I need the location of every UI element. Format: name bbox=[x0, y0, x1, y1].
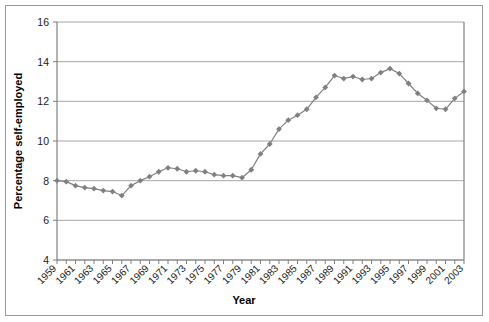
svg-text:2001: 2001 bbox=[423, 262, 447, 286]
svg-text:1991: 1991 bbox=[331, 262, 355, 286]
x-axis-title: Year bbox=[232, 294, 256, 306]
svg-text:1977: 1977 bbox=[201, 262, 225, 286]
svg-text:8: 8 bbox=[43, 175, 49, 187]
chart-container: 46810121416 1959196119631965196719691971… bbox=[0, 0, 489, 322]
svg-text:1965: 1965 bbox=[90, 262, 114, 286]
svg-text:1993: 1993 bbox=[349, 262, 373, 286]
svg-text:1971: 1971 bbox=[146, 262, 170, 286]
svg-text:1995: 1995 bbox=[368, 262, 392, 286]
svg-text:14: 14 bbox=[37, 56, 49, 68]
gridlines bbox=[57, 22, 464, 260]
svg-text:2003: 2003 bbox=[442, 262, 466, 286]
x-axis-tick-labels: 1959196119631965196719691971197319751977… bbox=[35, 262, 466, 286]
svg-text:1985: 1985 bbox=[275, 262, 299, 286]
y-axis-title: Percentage self-employed bbox=[12, 73, 24, 209]
line-chart: 46810121416 1959196119631965196719691971… bbox=[0, 0, 489, 322]
svg-text:1969: 1969 bbox=[127, 262, 151, 286]
svg-text:1975: 1975 bbox=[183, 262, 207, 286]
svg-text:1989: 1989 bbox=[312, 262, 336, 286]
svg-text:12: 12 bbox=[37, 95, 49, 107]
svg-text:1963: 1963 bbox=[72, 262, 96, 286]
data-series-line bbox=[57, 69, 464, 196]
svg-text:1983: 1983 bbox=[257, 262, 281, 286]
svg-text:1961: 1961 bbox=[53, 262, 77, 286]
svg-text:1959: 1959 bbox=[35, 262, 59, 286]
svg-text:1997: 1997 bbox=[386, 262, 410, 286]
data-point-markers bbox=[54, 66, 467, 199]
svg-text:1979: 1979 bbox=[220, 262, 244, 286]
svg-text:10: 10 bbox=[37, 135, 49, 147]
svg-text:16: 16 bbox=[37, 16, 49, 28]
svg-text:1981: 1981 bbox=[238, 262, 262, 286]
svg-text:1999: 1999 bbox=[405, 262, 429, 286]
svg-text:6: 6 bbox=[43, 214, 49, 226]
y-axis-tick-labels: 46810121416 bbox=[37, 16, 49, 266]
svg-text:1987: 1987 bbox=[294, 262, 318, 286]
svg-text:1973: 1973 bbox=[164, 262, 188, 286]
svg-text:1967: 1967 bbox=[109, 262, 133, 286]
